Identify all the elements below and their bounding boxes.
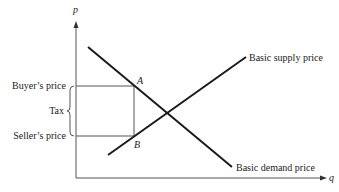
buyers-price-label: Buyer’s price	[12, 80, 67, 91]
arrow-up-icon	[74, 21, 79, 28]
tax-brace-icon	[67, 86, 74, 136]
demand-curve-label: Basic demand price	[236, 162, 315, 173]
supply-curve	[108, 57, 246, 155]
point-a-label: A	[136, 75, 144, 86]
x-axis-label: q	[329, 172, 334, 183]
tax-incidence-diagram: p q Basic supply price Basic demand pric…	[0, 0, 339, 192]
tax-rectangle	[76, 86, 134, 136]
arrow-right-icon	[320, 176, 327, 181]
price-axis	[74, 21, 79, 178]
demand-curve	[88, 47, 232, 167]
sellers-price-label: Seller’s price	[13, 130, 66, 141]
supply-curve-label: Basic supply price	[249, 52, 323, 63]
point-b-label: B	[134, 139, 140, 150]
tax-label: Tax	[49, 105, 64, 116]
y-axis-label: p	[72, 4, 78, 15]
quantity-axis	[76, 176, 327, 181]
